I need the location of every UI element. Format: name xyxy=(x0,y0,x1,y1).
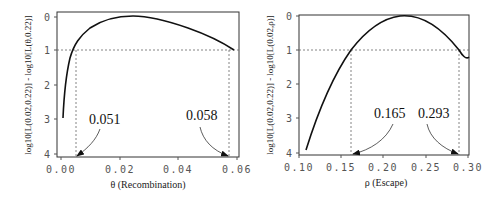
left-xtick: 0.06 xyxy=(222,164,252,175)
left-arrow-upper xyxy=(200,127,228,156)
right-arrow-lower xyxy=(353,124,393,154)
figure: 0 1 2 3 4 0.00 0.02 0.04 0.06 θ (Recombi… xyxy=(0,0,497,202)
right-xtick: 0.25 xyxy=(411,162,441,173)
left-x-label: θ (Recombination) xyxy=(110,179,185,191)
right-annotation-lower: 0.165 xyxy=(374,106,406,121)
left-curve xyxy=(63,16,234,118)
left-ytick: 2 xyxy=(44,80,50,91)
right-annotation-upper: 0.293 xyxy=(418,106,450,121)
left-annotation-lower: 0.051 xyxy=(89,112,121,127)
right-arrow-upper xyxy=(427,124,458,154)
right-ytick: 2 xyxy=(286,79,292,90)
right-y-axis: 0 1 2 3 4 xyxy=(286,11,299,159)
right-y-label: log10[L(0.02,0.22)] - log10[L(0.02,ρ)] xyxy=(265,15,275,155)
right-xtick: 0.30 xyxy=(453,162,483,173)
left-ytick: 4 xyxy=(44,149,50,160)
right-x-axis: 0.10 0.15 0.20 0.25 0.30 xyxy=(284,155,483,173)
right-plot: 0 1 2 3 4 0.10 0.15 0.20 0.25 0.30 ρ (Es… xyxy=(265,11,483,189)
left-plot: 0 1 2 3 4 0.00 0.02 0.04 0.06 θ (Recombi… xyxy=(23,12,252,191)
left-ytick: 1 xyxy=(44,45,50,56)
right-ytick: 0 xyxy=(286,11,292,22)
right-ytick: 3 xyxy=(286,113,292,124)
left-xtick: 0.04 xyxy=(163,164,193,175)
left-ytick: 0 xyxy=(44,12,50,23)
right-x-label: ρ (Escape) xyxy=(365,177,407,189)
left-x-axis: 0.00 0.02 0.04 0.06 xyxy=(46,157,252,175)
left-arrow-lower xyxy=(77,129,100,156)
right-curve xyxy=(306,16,469,150)
left-xtick: 0.00 xyxy=(46,164,76,175)
right-ytick: 1 xyxy=(286,45,292,56)
left-y-label: log10[L(0.02,0.22)] - log10[L(θ,0.22)] xyxy=(23,15,33,155)
right-plot-frame xyxy=(299,15,469,155)
right-xtick: 0.20 xyxy=(368,162,398,173)
left-y-axis: 0 1 2 3 4 xyxy=(44,12,57,160)
right-xtick: 0.15 xyxy=(326,162,356,173)
right-ytick: 4 xyxy=(286,148,292,159)
left-xtick: 0.02 xyxy=(105,164,135,175)
left-annotation-upper: 0.058 xyxy=(186,108,218,123)
left-ytick: 3 xyxy=(44,114,50,125)
charts-svg: 0 1 2 3 4 0.00 0.02 0.04 0.06 θ (Recombi… xyxy=(0,0,497,202)
right-xtick: 0.10 xyxy=(284,162,314,173)
